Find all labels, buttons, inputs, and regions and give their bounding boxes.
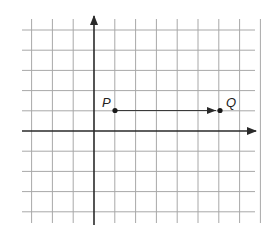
label-q: Q [226, 96, 236, 109]
point-q [217, 108, 222, 113]
point-p [112, 108, 117, 113]
grid-lines [22, 19, 260, 223]
label-p: P [102, 96, 111, 109]
coordinate-plane [0, 0, 267, 243]
